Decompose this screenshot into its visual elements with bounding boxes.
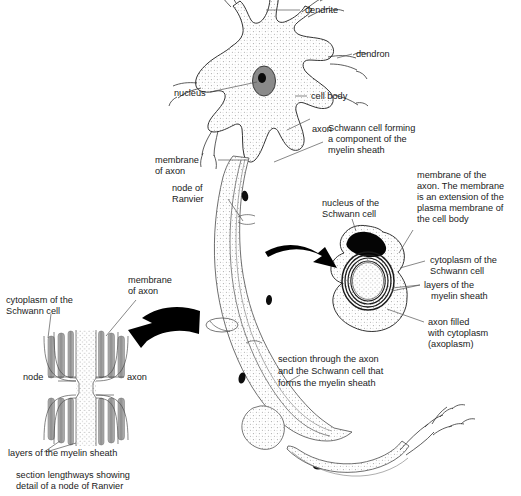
svg-text:Schwann cell forming: Schwann cell forming [328, 123, 415, 133]
svg-text:cytoplasm of the: cytoplasm of the [430, 255, 497, 265]
svg-text:detail of a node of Ranvier: detail of a node of Ranvier [16, 481, 123, 491]
label-membrane-of-the-axon-long: membrane of the axon. The membrane is an… [417, 170, 504, 224]
label-node-of-ranvier-main: node of Ranvier [172, 183, 204, 204]
svg-text:axon filled: axon filled [428, 317, 469, 327]
label-dendron: dendron [356, 49, 390, 59]
svg-text:section lengthways showing: section lengthways showing [16, 470, 130, 480]
caption-section-through-axon: section through the axon and the Schwann… [278, 354, 384, 388]
neuron-diagram-figure: dendrite dendron nucleus cell body axon … [0, 0, 521, 496]
svg-text:Ranvier: Ranvier [172, 194, 204, 204]
label-nucleus-of-schwann-cell: nucleus of the Schwann cell [322, 198, 379, 219]
label-nucleus: nucleus [174, 88, 206, 98]
svg-text:plasma membrane of: plasma membrane of [417, 203, 504, 213]
svg-text:membrane: membrane [155, 155, 199, 165]
label-schwann-cell-forming: Schwann cell forming a component of the … [328, 123, 415, 155]
svg-text:of axon: of axon [128, 286, 158, 296]
axon-terminal-bulb [287, 441, 409, 472]
label-cell-body: cell body [311, 91, 348, 101]
caption-section-lengthways: section lengthways showing detail of a n… [16, 470, 130, 491]
svg-text:myelin sheath: myelin sheath [328, 145, 385, 155]
svg-text:membrane: membrane [128, 275, 172, 285]
inset-myelin-upper-left [44, 331, 76, 381]
axon-schwann-bulge [242, 406, 285, 450]
svg-text:myelin sheath: myelin sheath [431, 291, 488, 301]
label-node-inset: node [23, 372, 43, 382]
lead-membrane-long [399, 230, 413, 253]
svg-text:axon. The membrane: axon. The membrane [417, 181, 504, 191]
label-dendrite: dendrite [305, 5, 338, 15]
label-membrane-of-axon-inset: membrane of axon [128, 275, 172, 296]
label-cytoplasm-of-schwann-cell-right: cytoplasm of the Schwann cell [430, 255, 497, 276]
diagram-canvas: dendrite dendron nucleus cell body axon … [0, 0, 521, 496]
label-membrane-of-axon-main: membrane of axon [155, 155, 199, 176]
svg-text:cytoplasm of the: cytoplasm of the [6, 295, 73, 305]
inset-myelin-lower-left [44, 395, 76, 445]
inset-myelin-upper-right [96, 331, 128, 381]
arrow-to-cross-section [265, 245, 337, 268]
svg-text:with cytoplasm: with cytoplasm [427, 328, 489, 338]
label-cytoplasm-of-schwann-cell-left: cytoplasm of the Schwann cell [6, 295, 73, 316]
nucleolus [258, 73, 266, 83]
svg-text:section through the axon: section through the axon [278, 354, 379, 364]
node-inset-group [44, 330, 128, 446]
cross-section-group [331, 225, 407, 331]
svg-text:nucleus of the: nucleus of the [322, 198, 379, 208]
svg-text:Schwann cell: Schwann cell [430, 266, 484, 276]
axon-terminal-branches [400, 405, 475, 455]
axon-core-xs [352, 263, 383, 300]
svg-text:layers of the: layers of the [424, 280, 474, 290]
svg-text:membrane of the: membrane of the [417, 170, 486, 180]
svg-text:node of: node of [172, 183, 203, 193]
svg-text:of axon: of axon [155, 166, 185, 176]
svg-text:forms the myelin sheath: forms the myelin sheath [278, 378, 376, 388]
svg-text:the cell body: the cell body [417, 214, 469, 224]
svg-text:(axoplasm): (axoplasm) [428, 339, 473, 349]
label-layers-of-myelin-sheath-right: layers of the myelin sheath [424, 280, 488, 301]
label-layers-of-myelin-sheath-left: layers of the myelin sheath [8, 448, 117, 458]
svg-text:Schwann cell: Schwann cell [322, 209, 376, 219]
label-axon-filled-axoplasm: axon filled with cytoplasm (axoplasm) [427, 317, 489, 349]
svg-text:a component of the: a component of the [328, 134, 407, 144]
inset-myelin-lower-right [96, 395, 128, 445]
svg-text:Schwann cell: Schwann cell [6, 306, 60, 316]
arrow-to-node-inset [128, 307, 200, 348]
svg-text:and the Schwann cell that: and the Schwann cell that [278, 366, 384, 376]
lead-cytoplasm-left [48, 314, 51, 338]
svg-text:is an extension of the: is an extension of the [417, 192, 504, 202]
label-axon-inset: axon [127, 372, 147, 382]
